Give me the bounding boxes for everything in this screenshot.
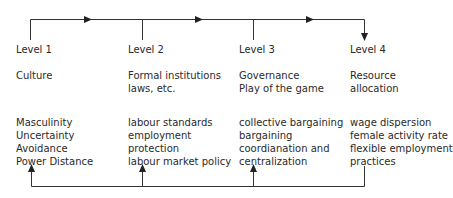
level-items: labour standards employment protection l… bbox=[128, 116, 231, 168]
list-item: centralization bbox=[239, 155, 343, 168]
list-item: Uncertainty bbox=[16, 129, 93, 142]
list-item: coordianation and bbox=[239, 142, 343, 155]
arrow-right-icon bbox=[84, 16, 92, 23]
heading-line: allocation bbox=[350, 82, 399, 95]
list-item: labour market policy bbox=[128, 155, 231, 168]
heading-line: Resource bbox=[350, 69, 399, 82]
list-item: protection bbox=[128, 142, 231, 155]
list-item: bargaining bbox=[239, 129, 343, 142]
list-item: collective bargaining bbox=[239, 116, 343, 129]
level-label: Level 1 bbox=[16, 43, 52, 56]
level-heading: Formal institutions laws, etc. bbox=[128, 69, 221, 95]
level-items: Masculinity Uncertainty Avoidance Power … bbox=[16, 116, 93, 168]
heading-line: laws, etc. bbox=[128, 82, 221, 95]
level-items: collective bargaining bargaining coordia… bbox=[239, 116, 343, 168]
list-item: Power Distance bbox=[16, 155, 93, 168]
heading-line: Governance bbox=[239, 69, 324, 82]
level-heading: Resource allocation bbox=[350, 69, 399, 95]
arrow-right-icon bbox=[195, 16, 203, 23]
arrow-right-icon bbox=[306, 16, 314, 23]
list-item: Avoidance bbox=[16, 142, 93, 155]
level-items: wage dispersion female activity rate fle… bbox=[350, 116, 453, 168]
level-heading: Culture bbox=[16, 69, 52, 82]
level-label: Level 3 bbox=[239, 43, 275, 56]
heading-line: Play of the game bbox=[239, 82, 324, 95]
list-item: flexible employment bbox=[350, 142, 453, 155]
list-item: Masculinity bbox=[16, 116, 93, 129]
list-item: practices bbox=[350, 155, 453, 168]
list-item: wage dispersion bbox=[350, 116, 453, 129]
heading-line: Formal institutions bbox=[128, 69, 221, 82]
arrow-down-icon bbox=[361, 33, 368, 41]
heading-line: Culture bbox=[16, 69, 52, 82]
list-item: female activity rate bbox=[350, 129, 453, 142]
list-item: employment bbox=[128, 129, 231, 142]
list-item: labour standards bbox=[128, 116, 231, 129]
level-label: Level 2 bbox=[128, 43, 164, 56]
level-heading: Governance Play of the game bbox=[239, 69, 324, 95]
level-label: Level 4 bbox=[350, 43, 386, 56]
